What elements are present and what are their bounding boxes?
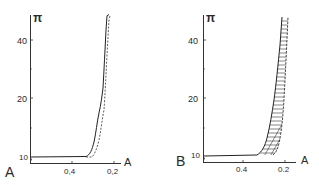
isotherm-left-boundary — [204, 17, 282, 156]
isotherm-dashed — [86, 15, 110, 157]
hatched-region — [250, 21, 292, 160]
panel-a: π 40 20 10 0,4 0,2 A A — [5, 11, 132, 180]
y-tick-label-20: 20 — [17, 94, 27, 104]
figure: π 40 20 10 0,4 0,2 A A π 40 20 10 0.4 0.… — [0, 0, 319, 185]
isotherm-solid — [31, 15, 109, 157]
panel-label-a: A — [5, 164, 15, 180]
x-tick-label-0-4: 0,4 — [64, 167, 76, 176]
y-tick-label-20: 20 — [188, 94, 198, 104]
x-tick-label-0-4: 0.4 — [236, 165, 248, 174]
panel-b: π 40 20 10 0.4 0.2 A B — [176, 11, 309, 174]
x-tick-label-0-2: 0.2 — [278, 165, 290, 174]
panel-label-b: B — [176, 153, 185, 169]
x-axis-label: A — [301, 154, 309, 166]
y-tick-label-40: 40 — [188, 36, 198, 46]
y-axis-label: π — [206, 11, 215, 25]
y-tick-label-10: 10 — [191, 151, 200, 160]
x-tick-label-0-2: 0,2 — [107, 167, 119, 176]
x-axis-label: A — [124, 156, 132, 168]
y-tick-label-10: 10 — [19, 153, 28, 162]
y-tick-label-40: 40 — [17, 36, 27, 46]
y-axis-label: π — [33, 11, 42, 25]
